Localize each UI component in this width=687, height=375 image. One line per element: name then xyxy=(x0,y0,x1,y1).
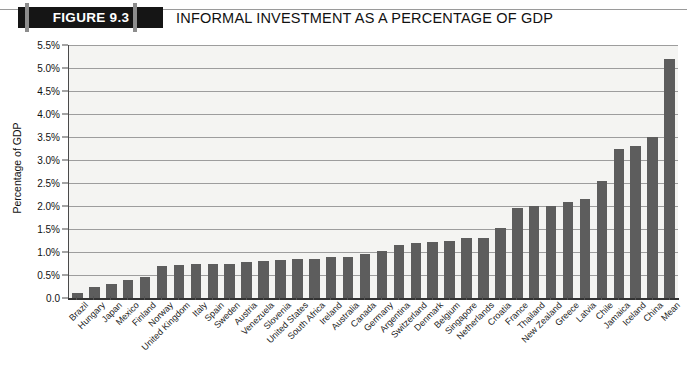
bar-chart: Percentage of GDP 5.5%5.0%4.5%4.0%3.5%3.… xyxy=(0,34,687,375)
bar[interactable] xyxy=(241,262,251,298)
x-axis-tick-mark xyxy=(381,296,382,300)
bar[interactable] xyxy=(343,257,353,298)
y-axis-tick-mark xyxy=(62,183,68,184)
y-axis-tick-labels: 5.5%5.0%4.5%4.0%3.5%3.0%2.5%2.0%1.5%1.0%… xyxy=(26,34,60,309)
x-axis-tick-mark xyxy=(246,296,247,300)
bar-slot xyxy=(309,45,319,298)
y-axis-tick-label: 4.0% xyxy=(26,109,60,120)
bar[interactable] xyxy=(630,146,640,298)
bar-slot xyxy=(275,45,285,298)
y-axis-tick-mark xyxy=(62,160,68,161)
x-axis-tick-mark xyxy=(330,296,331,300)
y-axis-title: Percentage of GDP xyxy=(11,93,23,243)
y-axis-tick-mark xyxy=(62,45,68,46)
bar[interactable] xyxy=(208,264,218,298)
figure-header: FIGURE 9.3 INFORMAL INVESTMENT AS A PERC… xyxy=(0,0,687,34)
x-axis-tick-mark xyxy=(161,296,162,300)
bar-slot xyxy=(495,45,505,298)
bar-slot xyxy=(444,45,454,298)
bar[interactable] xyxy=(292,259,302,298)
bar-slot xyxy=(360,45,370,298)
bar[interactable] xyxy=(647,137,657,298)
bar-slot xyxy=(377,45,387,298)
x-axis-tick-mark xyxy=(93,296,94,300)
y-axis-tick-mark xyxy=(62,137,68,138)
bar[interactable] xyxy=(174,265,184,298)
x-axis-tick-mark xyxy=(482,296,483,300)
y-axis-tick-label: 4.5% xyxy=(26,86,60,97)
y-axis-tick-label: 0.5% xyxy=(26,270,60,281)
badge-tick-left xyxy=(25,3,29,32)
x-axis-tick-mark xyxy=(76,296,77,300)
bar[interactable] xyxy=(614,149,624,299)
x-axis-tick-mark xyxy=(601,296,602,300)
y-axis-tick-mark xyxy=(62,229,68,230)
bar-slot xyxy=(427,45,437,298)
figure-number-label: FIGURE 9.3 xyxy=(36,8,146,27)
bar[interactable] xyxy=(140,277,150,298)
y-axis-tick-label: 2.0% xyxy=(26,201,60,212)
bar[interactable] xyxy=(664,59,674,298)
x-axis-tick-mark xyxy=(347,296,348,300)
bar-slot xyxy=(512,45,522,298)
bar[interactable] xyxy=(309,259,319,298)
x-axis-tick-mark xyxy=(110,296,111,300)
y-axis-tick-mark xyxy=(62,114,68,115)
x-axis-tick-mark xyxy=(567,296,568,300)
bar[interactable] xyxy=(191,264,201,298)
x-axis-tick-mark xyxy=(178,296,179,300)
bar-slot xyxy=(614,45,624,298)
x-axis-tick-mark xyxy=(499,296,500,300)
bar[interactable] xyxy=(106,284,116,298)
y-axis-tick-mark xyxy=(62,298,68,299)
y-axis-tick-label: 2.5% xyxy=(26,178,60,189)
x-axis-tick-mark xyxy=(415,296,416,300)
y-axis-tick-label: 3.0% xyxy=(26,155,60,166)
y-axis-tick-label: 5.0% xyxy=(26,63,60,74)
bar[interactable] xyxy=(546,206,556,298)
figure-title: INFORMAL INVESTMENT AS A PERCENTAGE OF G… xyxy=(176,8,553,28)
bar[interactable] xyxy=(597,181,607,298)
bar[interactable] xyxy=(512,208,522,298)
bar-series xyxy=(69,45,678,298)
bar[interactable] xyxy=(157,266,167,298)
bar[interactable] xyxy=(326,257,336,298)
bar[interactable] xyxy=(563,202,573,298)
x-axis-tick-label: Mean xyxy=(659,300,682,323)
y-axis-tick-mark xyxy=(62,206,68,207)
bar-slot xyxy=(326,45,336,298)
bar[interactable] xyxy=(224,264,234,299)
bar-slot xyxy=(224,45,234,298)
plot-area xyxy=(68,45,678,298)
bar[interactable] xyxy=(478,238,488,298)
bar[interactable] xyxy=(275,260,285,298)
x-axis-tick-mark xyxy=(635,296,636,300)
bar[interactable] xyxy=(394,245,404,298)
bar-slot xyxy=(343,45,353,298)
x-axis-tick-mark xyxy=(229,296,230,300)
x-axis-tick-mark xyxy=(279,296,280,300)
bar-slot xyxy=(72,45,82,298)
y-axis-tick-label: 1.5% xyxy=(26,224,60,235)
bar[interactable] xyxy=(580,199,590,298)
bar-slot xyxy=(664,45,674,298)
bar[interactable] xyxy=(444,241,454,299)
x-axis-tick-mark xyxy=(398,296,399,300)
x-axis-tick-mark xyxy=(195,296,196,300)
bar[interactable] xyxy=(258,261,268,298)
bar[interactable] xyxy=(529,206,539,298)
x-axis-tick-mark xyxy=(212,296,213,300)
y-axis-tick-label: 1.0% xyxy=(26,247,60,258)
bar[interactable] xyxy=(427,242,437,298)
bar[interactable] xyxy=(411,243,421,298)
x-axis-tick-mark xyxy=(313,296,314,300)
bar[interactable] xyxy=(377,251,387,298)
x-axis-tick-mark xyxy=(449,296,450,300)
bar-slot xyxy=(647,45,657,298)
bar[interactable] xyxy=(495,228,505,298)
x-axis-tick-mark xyxy=(584,296,585,300)
bar[interactable] xyxy=(461,238,471,298)
bar-slot xyxy=(580,45,590,298)
bar[interactable] xyxy=(360,254,370,298)
bar-slot xyxy=(411,45,421,298)
